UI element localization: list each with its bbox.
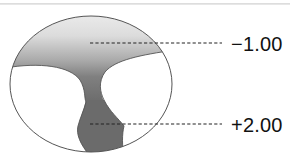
- distance-power-label: −1.00: [231, 34, 283, 54]
- lens-diagram: [0, 0, 290, 162]
- near-power-label: +2.00: [231, 115, 283, 135]
